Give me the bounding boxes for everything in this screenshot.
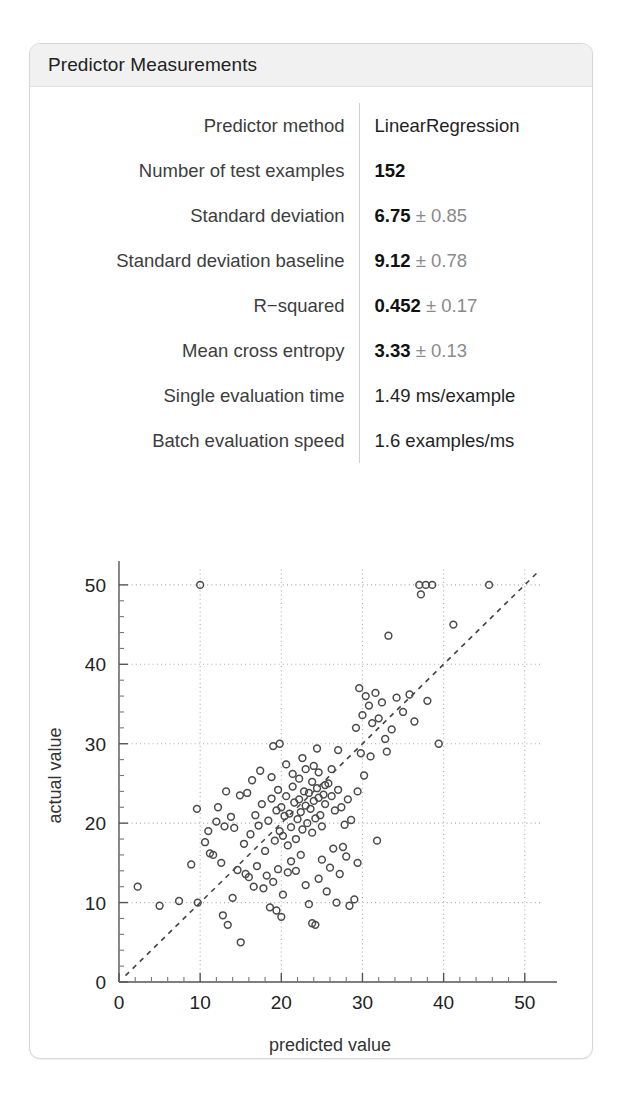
y-axis-tick-label: 10: [85, 893, 106, 914]
y-axis-tick-label: 40: [85, 654, 106, 675]
data-point: [224, 921, 231, 928]
data-point: [234, 867, 241, 874]
data-point: [284, 869, 291, 876]
measurement-value-main: 1.6 examples/ms: [375, 430, 515, 451]
data-point: [262, 848, 269, 855]
data-point: [268, 795, 275, 802]
data-point: [348, 817, 355, 824]
table-row: Standard deviation6.75 ± 0.85: [30, 193, 592, 238]
data-point: [252, 812, 259, 819]
data-point: [361, 772, 368, 779]
data-point: [367, 753, 374, 760]
data-point: [424, 697, 431, 704]
data-point: [306, 901, 313, 908]
data-point: [323, 888, 330, 895]
data-point: [250, 883, 257, 890]
data-point: [271, 837, 278, 844]
measurement-value: 0.452 ± 0.17: [359, 283, 592, 328]
data-point: [247, 831, 254, 838]
data-point: [176, 898, 183, 905]
measurement-label: R−squared: [30, 283, 359, 328]
data-point: [267, 904, 274, 911]
data-point: [231, 825, 238, 832]
measurement-value-main: 152: [375, 160, 406, 181]
y-axis-tick-label: 50: [85, 575, 106, 596]
data-point: [346, 902, 353, 909]
data-point: [213, 818, 220, 825]
data-point: [293, 867, 300, 874]
x-axis-tick-label: 20: [271, 992, 292, 1013]
data-point: [335, 786, 342, 793]
identity-reference-line: [125, 573, 536, 976]
data-point: [229, 894, 236, 901]
x-axis-title: predicted value: [269, 1035, 391, 1055]
data-point: [228, 813, 235, 820]
measurement-label: Single evaluation time: [30, 373, 359, 418]
data-point: [219, 912, 226, 919]
measurement-value-error: ± 0.78: [411, 250, 467, 271]
data-point: [270, 879, 277, 886]
measurement-value-error: ± 0.17: [421, 295, 477, 316]
data-point: [223, 788, 230, 795]
data-point: [354, 788, 361, 795]
data-point: [249, 777, 256, 784]
data-point: [335, 747, 342, 754]
axes-layer: [119, 561, 557, 982]
data-point: [289, 783, 296, 790]
table-row: Mean cross entropy3.33 ± 0.13: [30, 328, 592, 373]
measurement-value: 1.49 ms/example: [359, 373, 592, 418]
data-point: [331, 807, 338, 814]
y-axis-tick-label: 30: [85, 734, 106, 755]
data-point: [340, 844, 347, 851]
data-point: [383, 748, 390, 755]
data-point: [411, 718, 418, 725]
data-point: [393, 694, 400, 701]
data-point: [273, 907, 280, 914]
predictor-measurements-card: Predictor Measurements Predictor methodL…: [29, 43, 593, 1059]
data-point: [315, 769, 322, 776]
y-axis-tick-label: 0: [95, 972, 106, 993]
data-point: [310, 763, 317, 770]
data-point: [302, 882, 309, 889]
data-point: [330, 845, 337, 852]
measurement-value: 6.75 ± 0.85: [359, 193, 592, 238]
data-point: [318, 856, 325, 863]
table-row: Number of test examples152: [30, 148, 592, 193]
data-point: [237, 939, 244, 946]
data-point: [344, 796, 351, 803]
data-point: [372, 690, 379, 697]
data-point: [297, 852, 304, 859]
page-title: Predictor Measurements: [48, 54, 257, 76]
card-header: Predictor Measurements: [30, 44, 592, 87]
data-point: [265, 817, 272, 824]
data-point: [354, 859, 361, 866]
data-point: [314, 745, 321, 752]
data-point: [258, 801, 265, 808]
table-row: Single evaluation time1.49 ms/example: [30, 373, 592, 418]
data-point: [417, 591, 424, 598]
data-point: [356, 685, 363, 692]
data-point: [299, 826, 306, 833]
data-point: [366, 702, 373, 709]
data-point: [244, 790, 251, 797]
scatter-plot-svg: 0102030405001020304050predicted valueact…: [30, 531, 593, 1059]
data-point: [296, 775, 303, 782]
measurement-label: Batch evaluation speed: [30, 418, 359, 463]
data-point: [309, 778, 316, 785]
data-point: [294, 816, 301, 823]
data-point: [343, 853, 350, 860]
data-point: [283, 793, 290, 800]
data-point: [188, 861, 195, 868]
data-point: [289, 771, 296, 778]
data-point: [156, 902, 163, 909]
data-point: [221, 823, 228, 830]
data-point: [218, 859, 225, 866]
measurement-value-error: ± 0.85: [411, 205, 467, 226]
measurement-value-main: 0.452: [375, 295, 421, 316]
x-axis-tick-label: 0: [114, 992, 125, 1013]
data-point: [374, 837, 381, 844]
data-point: [194, 805, 201, 812]
data-point: [299, 755, 306, 762]
measurement-value-main: 1.49 ms/example: [375, 385, 516, 406]
data-point: [369, 720, 376, 727]
